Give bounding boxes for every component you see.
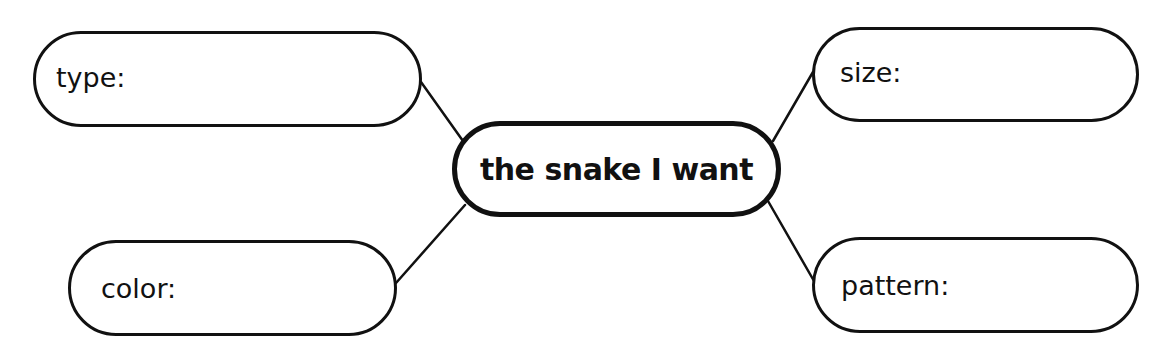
branch-node-color[interactable]: color: xyxy=(68,240,397,336)
branch-node-type[interactable]: type: xyxy=(33,31,422,127)
central-topic-node: the snake I want xyxy=(452,121,781,217)
branch-label-pattern: pattern: xyxy=(841,270,949,301)
central-topic-label: the snake I want xyxy=(480,152,753,187)
connector-color xyxy=(396,205,465,283)
branch-label-color: color: xyxy=(101,273,176,304)
branch-node-size[interactable]: size: xyxy=(812,27,1139,122)
branch-label-type: type: xyxy=(56,62,125,93)
connector-pattern xyxy=(768,201,814,281)
connector-type xyxy=(421,82,463,141)
mind-map-canvas: type: size: the snake I want color: patt… xyxy=(0,0,1172,352)
branch-label-size: size: xyxy=(840,57,901,88)
branch-node-pattern[interactable]: pattern: xyxy=(812,237,1139,333)
connector-size xyxy=(773,72,813,141)
